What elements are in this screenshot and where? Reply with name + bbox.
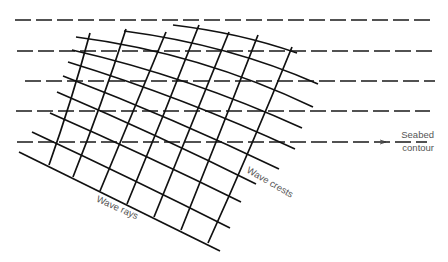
wave-ray-line [208, 47, 292, 243]
wave-ray-line [49, 33, 90, 165]
wave-ray-line [181, 35, 258, 230]
wave-crests [19, 25, 318, 251]
wave-crest-line [173, 25, 297, 53]
wave-crest-line [57, 92, 256, 184]
seabed-contour-label: Seabed contour [398, 128, 434, 154]
wave-refraction-diagram [0, 0, 448, 262]
seabed-label-line1: Seabed [398, 128, 434, 141]
wave-crest-line [124, 31, 318, 84]
wave-rays [49, 25, 292, 243]
seabed-label-line2: contour [398, 141, 434, 154]
wave-ray-line [154, 32, 229, 217]
